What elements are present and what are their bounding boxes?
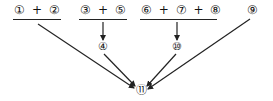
edge-g1-to-n11 [38,24,134,88]
node-9: ⑨ [247,4,258,16]
node-10: ⑩ [172,41,182,53]
group-6-7-8-label: ⑥ + ⑦ + ⑧ [140,3,217,20]
group-3-5-label: ③ + ⑤ [79,3,127,20]
group-6-7-8: ⑥ + ⑦ + ⑧ [140,3,217,20]
node-11: ⑪ [136,85,147,97]
edge-n9-to-n11 [148,19,250,89]
edge-n4-to-n11 [104,54,135,86]
node-4: ④ [98,41,108,53]
group-3-5: ③ + ⑤ [79,3,127,20]
group-1-2: ① + ② [13,3,61,20]
group-1-2-label: ① + ② [13,3,61,20]
edge-n10-to-n11 [147,54,176,86]
